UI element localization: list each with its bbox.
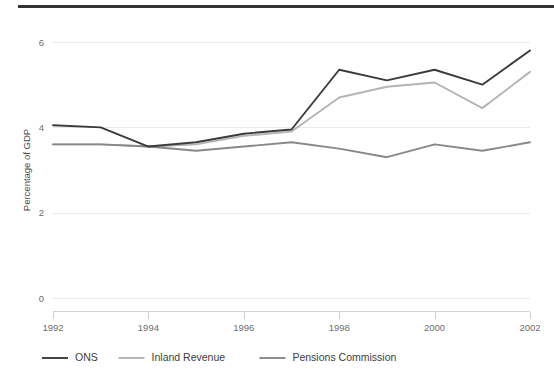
x-tick-label-1996: 1996 bbox=[233, 322, 254, 333]
y-tick-label-0: 0 bbox=[39, 293, 44, 304]
legend-label-pensions-commission: Pensions Commission bbox=[292, 351, 396, 363]
axis-lines bbox=[53, 299, 530, 312]
chart-svg: 0246 199219941996199820002002 Percentage… bbox=[0, 0, 554, 382]
legend-label-ons: ONS bbox=[75, 351, 98, 363]
series-line-pensions-commission bbox=[53, 142, 530, 157]
y-axis-title: Percentage of GDP bbox=[21, 129, 32, 211]
series-line-inland-revenue bbox=[53, 72, 530, 147]
chart-page: 0246 199219941996199820002002 Percentage… bbox=[0, 0, 554, 382]
y-tick-label-6: 6 bbox=[39, 37, 44, 48]
x-tick-label-2000: 2000 bbox=[424, 322, 445, 333]
data-series bbox=[53, 51, 530, 158]
y-tick-label-2: 2 bbox=[39, 207, 44, 218]
x-tick-marks bbox=[54, 312, 531, 319]
y-axis-title-text: Percentage of GDP bbox=[21, 129, 32, 211]
y-tick-labels: 0246 bbox=[39, 37, 44, 304]
x-tick-label-2002: 2002 bbox=[519, 322, 540, 333]
x-tick-label-1998: 1998 bbox=[329, 322, 350, 333]
gridlines bbox=[53, 43, 530, 214]
line-chart: 0246 199219941996199820002002 Percentage… bbox=[0, 0, 554, 382]
chart-legend: ONSInland RevenuePensions Commission bbox=[42, 351, 396, 363]
x-tick-labels: 199219941996199820002002 bbox=[42, 322, 540, 333]
x-tick-label-1992: 1992 bbox=[42, 322, 63, 333]
legend-label-inland-revenue: Inland Revenue bbox=[152, 351, 226, 363]
x-tick-label-1994: 1994 bbox=[138, 322, 159, 333]
y-tick-label-4: 4 bbox=[39, 122, 44, 133]
